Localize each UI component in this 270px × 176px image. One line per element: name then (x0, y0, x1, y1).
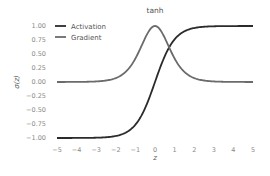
tanh-chart: tanh 1.000.750.500.250.00−0.25−0.50−0.75… (0, 0, 270, 176)
y-tick-label: 0.00 (32, 78, 46, 86)
y-tick-label: 0.25 (32, 64, 46, 72)
y-tick-label: 1.00 (32, 22, 46, 30)
x-axis-ticks: −5−4−3−2−1012345 (52, 146, 255, 154)
series-lines (57, 26, 253, 138)
x-tick-label: −4 (72, 146, 82, 154)
x-axis-label: z (152, 154, 157, 162)
x-tick-label: 5 (251, 146, 255, 154)
x-tick-label: 1 (173, 146, 177, 154)
y-axis-ticks: 1.000.750.500.250.00−0.25−0.50−0.75−1.00 (26, 22, 46, 142)
x-tick-label: −1 (131, 146, 141, 154)
legend-label-gradient: Gradient (71, 34, 102, 42)
y-tick-label: −0.25 (26, 92, 46, 100)
chart-title: tanh (146, 6, 163, 15)
x-tick-label: −2 (111, 146, 121, 154)
y-tick-label: 0.50 (32, 50, 46, 58)
x-tick-label: 2 (192, 146, 196, 154)
y-axis-label: σ(z) (13, 75, 21, 89)
y-tick-label: −0.75 (26, 120, 46, 128)
x-tick-label: 0 (153, 146, 157, 154)
y-tick-label: −0.50 (26, 106, 46, 114)
y-tick-label: −1.00 (26, 134, 46, 142)
legend: Activation Gradient (55, 23, 106, 42)
legend-label-activation: Activation (71, 23, 106, 31)
x-tick-label: −5 (52, 146, 62, 154)
x-tick-label: −3 (91, 146, 101, 154)
x-tick-label: 3 (212, 146, 216, 154)
y-tick-label: 0.75 (32, 36, 46, 44)
x-tick-label: 4 (231, 146, 235, 154)
